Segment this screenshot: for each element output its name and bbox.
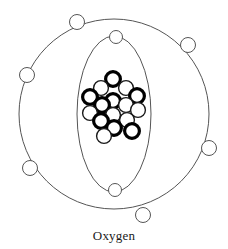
atom-diagram-canvas bbox=[0, 0, 228, 249]
outer-electron-1 bbox=[70, 15, 85, 30]
neutron-8 bbox=[97, 129, 112, 144]
outer-electron-5 bbox=[23, 161, 38, 176]
atom-diagram: Oxygen bbox=[0, 0, 228, 249]
outer-electron-3 bbox=[20, 68, 35, 83]
inner-electron-1 bbox=[110, 31, 123, 44]
nucleus bbox=[83, 72, 146, 144]
outer-electron-6 bbox=[136, 208, 151, 223]
element-caption: Oxygen bbox=[0, 228, 228, 244]
outer-electron-2 bbox=[181, 38, 196, 53]
inner-electron-2 bbox=[109, 184, 122, 197]
outer-electron-4 bbox=[202, 141, 217, 156]
proton-8 bbox=[125, 124, 140, 139]
